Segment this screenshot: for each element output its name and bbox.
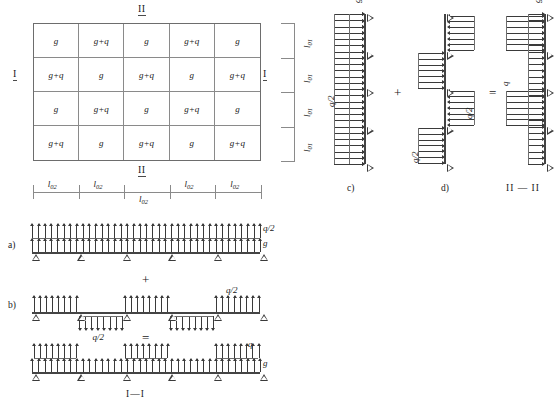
dimension-tick-h-4 [215,185,216,199]
panel-b-label: b) [8,300,16,310]
panel-b-load-down-2-arrow [116,316,117,330]
dimension-tick-v-4 [281,161,295,162]
panel-a-load-g-arrow [178,239,179,252]
panel-I-I-support-6 [260,374,268,381]
panel-I-I-load-g-arrow [197,359,198,372]
plan-cell-r1-c4: g+q [170,24,215,58]
panel-II-II-load-g-arrow [528,27,544,28]
panel-c-load-g-arrow [349,139,364,140]
panel-c-load-g-arrow [349,83,364,84]
panel-II-II-load-g-arrow [528,164,544,165]
panel-b-load-up-5-arrow [216,296,217,312]
panel-a-load-g-arrow [38,239,39,252]
panel-c-load-g-arrow [349,158,364,159]
panel-I-I-load-q-3-arrow [125,344,126,358]
panel-a-load-q2-arrow [64,224,65,238]
panel-c-load-g-arrow [349,127,364,128]
panel-I-I-load-g-arrow [165,359,166,372]
panel-II-II-load-g-arrow [528,145,544,146]
section-marker-I-left-bar [13,80,17,81]
panel-a-load-q2-arrow [159,224,160,238]
panel-b-load-up-3-arrow [125,296,126,312]
panel-I-I-load-q-3-arrow [161,344,162,358]
plan-cell-r3-c3: g [124,92,169,126]
panel-I-I-load-g-arrow [32,359,33,372]
panel-II-II-load-g-arrow [528,64,544,65]
panel-d-load-left-3-arrow [448,119,474,120]
panel-d-load-left-1-arrow [448,44,474,45]
plan-cell-r1-c5: g [215,24,260,58]
panel-I-I-load-q-3-arrow [167,344,168,358]
panel-I-I-load-g-arrow [247,359,248,372]
operator-equals-right: = [489,85,496,101]
panel-c-load-g-arrow [349,108,364,109]
panel-b-load-label-up: q/2 [226,285,238,295]
panel-a-load-g-arrow [197,239,198,252]
plan-cell-r3-c5: g [215,92,260,126]
panel-c-vertical-beam: q/2g [316,14,388,204]
panel-d-load-right-2-arrow [418,82,444,83]
panel-d-load-right-4-arrow [418,145,444,146]
panel-I-I-load-g-arrow [146,359,147,372]
panel-b-load-down-4-arrow [207,316,208,330]
panel-I-I-load-q-1-arrow [64,344,65,358]
dimension-label-v-2: l01 [302,74,313,83]
panel-c-load-g-arrow [349,14,364,15]
panel-I-I-load-g-arrow [83,359,84,372]
panel-d-load-right-2-arrow [418,65,444,66]
panel-c-load-g-arrow [349,133,364,134]
panel-a-load-q2-arrow [45,224,46,238]
panel-I-I-support-1 [32,374,40,381]
panel-a-load-g-arrow [209,239,210,252]
panel-II-II-load-g-arrow [528,39,544,40]
panel-I-I-load-g-arrow [184,359,185,372]
panel-a-load-q2-arrow [184,224,185,238]
panel-I-I-load-g-arrow [260,359,261,372]
panel-I-I-load-q-5-arrow [222,344,223,358]
panel-I-I-load-q-1-arrow [52,344,53,358]
panel-b-load-up-1-arrow [58,296,59,312]
panel-d-load-left-1-arrow [448,33,474,34]
panel-b-load-up-5-arrow [240,296,241,312]
panel-a-beam [32,252,260,254]
panel-a-load-g-arrow [83,239,84,252]
panel-I-I-load-q-1-arrow [34,344,35,358]
panel-c-load-g-arrow [349,145,364,146]
panel-b-load-up-3-arrow [167,296,168,312]
panel-a-load-g-arrow [260,239,261,252]
panel-d-load-right-2-arrow [418,88,444,89]
panel-b-load-down-2-arrow [103,316,104,330]
panel-a-load-g-arrow [51,239,52,252]
panel-d-load-right-4-arrow [418,151,444,152]
panel-b-load-label-down: q/2 [92,332,104,342]
panel-II-II-load-q-3-arrow [506,91,544,92]
panel-II-II-vertical-beam: gq [498,14,556,204]
panel-a-load-g-arrow [254,239,255,252]
panel-d-load-right-4-arrow [418,163,444,164]
panel-a-load-q2-arrow [114,224,115,238]
panel-b-support-1 [32,314,40,321]
plan-cell-r4-c2: g [79,126,124,160]
panel-II-II-load-q-3-capline [506,91,507,126]
panel-II-II-load-g-capline [528,14,529,164]
panel-I-I-load-g-arrow [121,359,122,372]
panel-II-II-support-5 [547,164,554,172]
section-marker-II-top: II [138,3,146,16]
panel-c-load-g-arrow [349,58,364,59]
panel-I-I-load-g-arrow [140,359,141,372]
panel-a-load-q2-arrow [254,224,255,238]
panel-a-load-g-arrow [184,239,185,252]
panel-c-support-5 [367,164,374,172]
panel-a-load-q2-arrow [178,224,179,238]
panel-a-load-label-q2: q/2 [263,223,275,233]
panel-b-load-up-3-arrow [161,296,162,312]
panel-a-load-g-arrow [235,239,236,252]
panel-II-II-load-g-arrow [528,120,544,121]
panel-b-load-up-5-arrow [228,296,229,312]
panel-a-load-q2-arrow [95,224,96,238]
panel-b-load-up-3-arrow [155,296,156,312]
panel-a-load-g-arrow [171,239,172,252]
panel-I-I-load-g-arrow [235,359,236,372]
panel-a-load-q2-arrow [209,224,210,238]
panel-II-II-load-label-q: q [500,82,510,87]
